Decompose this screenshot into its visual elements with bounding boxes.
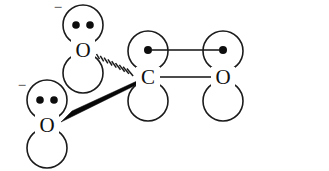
- lewis-structure-canvas: O − O − C O: [0, 0, 329, 171]
- atom-o-right: O: [203, 31, 243, 121]
- atom-label-o-lower-left: O: [39, 113, 54, 137]
- formal-charge-o-lower-left: −: [18, 77, 26, 93]
- atom-c-center: C: [128, 31, 168, 121]
- lewis-structure-diagram: O − O − C O: [0, 0, 329, 171]
- atom-label-o-upper-left: O: [75, 38, 90, 62]
- atom-o-upper-left: O −: [54, 0, 103, 93]
- formal-charge-o-upper-left: −: [54, 0, 62, 15]
- atom-label-o-right: O: [215, 65, 230, 89]
- o-upper-left-electron-dot-1: [72, 21, 80, 29]
- o-right-electron-dot-1: [219, 46, 227, 54]
- o-lower-left-electron-dot-2: [50, 96, 58, 104]
- c-center-electron-dot-1: [144, 46, 152, 54]
- bond-c-o-lower-left-solid-wedge: [61, 81, 137, 122]
- o-lower-left-electron-dot-1: [36, 96, 44, 104]
- atom-label-c-center: C: [141, 65, 155, 89]
- o-upper-left-electron-dot-2: [86, 21, 94, 29]
- atom-o-lower-left: O −: [18, 77, 67, 168]
